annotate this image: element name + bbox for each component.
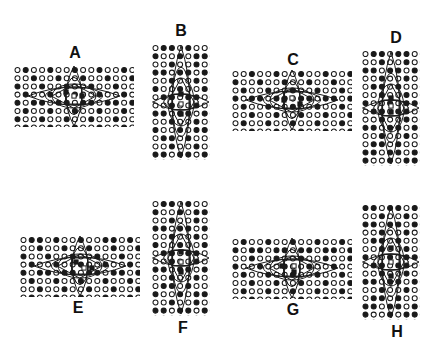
filled-square-marker — [280, 264, 284, 268]
open-circle-site — [363, 247, 368, 252]
open-circle-site — [241, 96, 246, 101]
filled-circle-site — [113, 100, 118, 105]
open-circle-site — [363, 142, 368, 147]
filled-circle-site — [161, 202, 166, 207]
open-circle-site — [363, 288, 368, 293]
open-circle-site — [202, 46, 207, 51]
open-circle-site — [331, 72, 336, 77]
open-circle-site — [161, 275, 166, 280]
open-circle-site — [241, 256, 246, 261]
filled-circle-site — [396, 52, 401, 57]
panel-b — [152, 44, 210, 160]
open-circle-site — [315, 297, 320, 299]
open-circle-site — [258, 88, 263, 93]
open-circle-site — [194, 226, 199, 231]
filled-circle-site — [340, 272, 345, 277]
open-circle-site — [153, 234, 158, 239]
filled-square-marker — [298, 102, 302, 106]
open-circle-site — [194, 152, 199, 157]
filled-circle-site — [15, 84, 20, 89]
filled-circle-site — [363, 222, 368, 227]
filled-circle-site — [299, 281, 304, 286]
filled-circle-site — [363, 125, 368, 130]
panel-label-b: B — [169, 23, 193, 39]
dot-grid — [153, 202, 210, 317]
open-circle-site — [46, 246, 51, 251]
open-circle-site — [161, 144, 166, 149]
open-circle-site — [105, 125, 110, 127]
filled-circle-site — [103, 238, 108, 243]
open-circle-site — [371, 312, 376, 317]
filled-circle-site — [178, 70, 183, 75]
filled-circle-site — [202, 210, 207, 215]
open-circle-site — [348, 104, 352, 109]
open-circle-site — [105, 84, 110, 89]
open-circle-site — [46, 295, 51, 297]
open-circle-site — [95, 295, 100, 297]
open-circle-site — [396, 214, 401, 219]
filled-circle-site — [274, 248, 279, 253]
open-circle-site — [266, 113, 271, 118]
open-circle-site — [307, 129, 312, 131]
filled-square-marker — [389, 96, 393, 100]
filled-circle-site — [404, 230, 409, 235]
lattice-g — [232, 238, 352, 299]
panel-c — [232, 70, 352, 131]
open-circle-site — [21, 295, 26, 297]
filled-circle-site — [363, 158, 368, 163]
open-circle-site — [404, 222, 409, 227]
open-square-marker — [389, 104, 393, 108]
open-circle-site — [161, 234, 166, 239]
panel-e — [20, 236, 140, 297]
open-circle-site — [161, 87, 166, 92]
lattice-e — [20, 236, 140, 297]
open-circle-site — [64, 125, 69, 127]
open-circle-site — [266, 129, 271, 131]
open-circle-site — [249, 240, 254, 245]
open-circle-site — [388, 76, 393, 81]
open-circle-site — [136, 295, 140, 297]
open-circle-site — [331, 297, 336, 299]
open-circle-site — [161, 300, 166, 305]
filled-circle-site — [186, 46, 191, 51]
open-circle-site — [46, 279, 51, 284]
filled-circle-site — [31, 100, 36, 105]
open-circle-site — [412, 238, 417, 243]
open-circle-site — [202, 136, 207, 141]
filled-circle-site — [241, 289, 246, 294]
filled-circle-site — [233, 248, 238, 253]
filled-circle-site — [299, 96, 304, 101]
filled-circle-site — [178, 128, 183, 133]
open-circle-site — [122, 76, 127, 81]
open-circle-site — [331, 113, 336, 118]
filled-circle-site — [363, 68, 368, 73]
open-circle-site — [323, 121, 328, 126]
open-circle-site — [95, 279, 100, 284]
filled-circle-site — [412, 312, 417, 317]
filled-circle-site — [348, 297, 352, 299]
open-circle-site — [87, 279, 92, 284]
open-circle-site — [388, 288, 393, 293]
open-circle-site — [363, 117, 368, 122]
open-circle-site — [371, 271, 376, 276]
open-circle-site — [153, 202, 158, 207]
open-circle-site — [249, 80, 254, 85]
filled-circle-site — [111, 246, 116, 251]
open-circle-site — [21, 279, 26, 284]
panel-h — [362, 204, 420, 320]
open-circle-site — [153, 46, 158, 51]
open-circle-site — [130, 125, 134, 127]
open-circle-site — [46, 262, 51, 267]
open-circle-site — [371, 60, 376, 65]
filled-circle-site — [54, 295, 59, 297]
open-circle-site — [290, 281, 295, 286]
filled-circle-site — [153, 210, 158, 215]
filled-circle-site — [128, 238, 133, 243]
filled-circle-site — [153, 111, 158, 116]
filled-circle-site — [56, 76, 61, 81]
filled-circle-site — [46, 254, 51, 259]
open-circle-site — [404, 206, 409, 211]
filled-circle-site — [258, 96, 263, 101]
filled-circle-site — [37, 246, 42, 251]
open-circle-site — [233, 129, 238, 131]
